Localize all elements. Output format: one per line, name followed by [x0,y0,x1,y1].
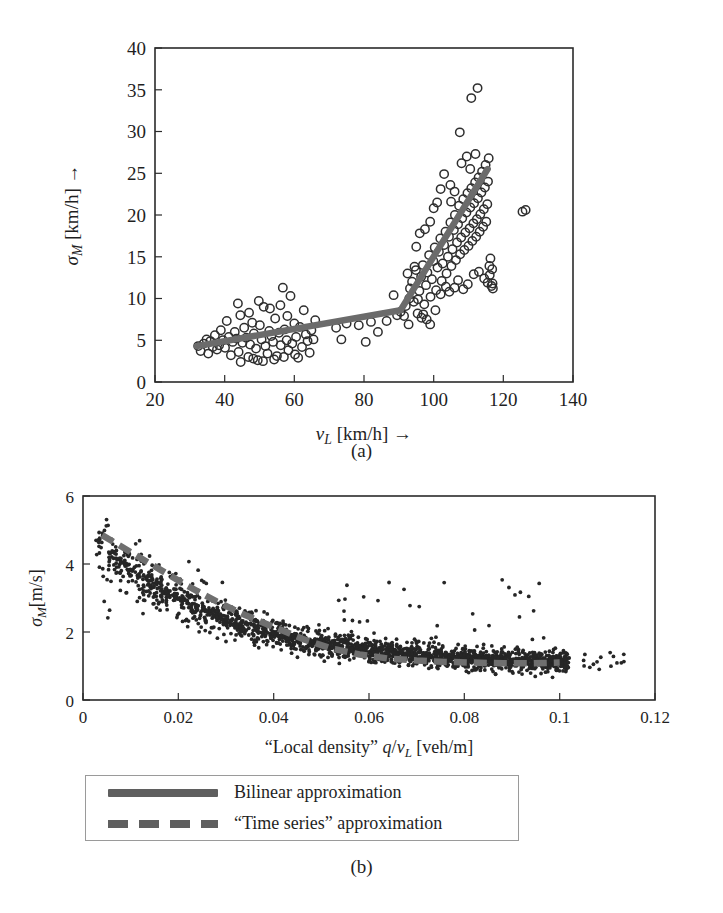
data-point [223,317,231,325]
data-point [255,297,263,305]
data-point [438,653,442,657]
data-point [529,671,533,675]
data-point [366,619,370,623]
data-point [559,658,563,662]
data-point [527,656,531,660]
data-point [466,655,470,659]
data-point [517,652,521,656]
data-point [145,575,149,579]
data-point [431,306,439,314]
data-point [151,602,155,606]
data-point [612,655,616,659]
data-point [240,324,248,332]
data-point [152,584,156,588]
panel-b-xtick-0: 0 [79,708,88,727]
data-point [131,579,135,583]
data-point [300,306,308,314]
data-point [117,565,121,569]
data-point [494,655,498,659]
data-point [254,609,258,613]
data-point [355,321,363,329]
data-point [130,568,134,572]
data-point [229,632,233,636]
data-point [234,299,242,307]
panel-b-y-ticks: 0 2 4 6 [66,488,91,711]
data-point [165,599,169,603]
data-point [403,647,407,651]
data-point [283,312,291,320]
data-point [277,641,281,645]
data-point [239,633,243,637]
data-point [245,308,253,316]
panel-a-y-ticks: 0 5 10 15 20 25 30 35 40 [127,38,162,393]
data-point [199,625,203,629]
data-point [517,670,521,674]
data-point [276,301,284,309]
data-point [462,653,466,657]
data-point [131,556,135,560]
data-point [279,648,283,652]
data-point [346,640,350,644]
data-point [448,658,452,662]
data-point [507,586,511,590]
data-point [475,645,479,649]
data-point [539,652,543,656]
data-point [127,580,131,584]
data-point [467,671,471,675]
data-point [293,625,297,629]
data-point [532,651,536,655]
data-point [619,661,623,665]
panel-a-xtick-120: 120 [489,389,518,410]
data-point [159,575,163,579]
panel-b-ytick-2: 2 [66,624,75,643]
data-point [482,643,486,647]
legend-item-timeseries[interactable]: “Time series” approximation [86,807,518,840]
data-point [236,311,244,319]
data-point [257,646,261,650]
data-point [147,589,151,593]
panel-a-ytick-25: 25 [127,163,146,184]
data-point [451,652,455,656]
data-point [181,595,185,599]
data-point [185,618,189,622]
data-point [165,603,169,607]
data-point [337,335,345,343]
data-point [417,605,421,609]
legend-item-bilinear[interactable]: Bilinear approximation [86,776,518,809]
data-point [224,640,228,644]
data-point [306,629,310,633]
data-point [483,668,487,672]
data-point [559,651,563,655]
data-point [155,587,159,591]
panel-a-xtick-140: 140 [559,389,588,410]
data-point [253,624,257,628]
data-point [109,579,113,583]
data-point [442,581,446,585]
data-point [122,554,126,558]
data-point [122,559,126,563]
panel-b-svg: σM[m/s] 0 2 4 6 [0,470,723,770]
panel-b-xtick-01: 0.1 [549,708,570,727]
data-point [244,622,248,626]
panel-b-xtick-006: 0.06 [354,708,384,727]
data-point [326,656,330,660]
legend-swatch-dashed-icon [108,807,218,840]
data-point [431,645,435,649]
data-point [368,657,372,661]
data-point [222,633,226,637]
data-point [271,645,275,649]
data-point [99,546,103,550]
data-point [95,553,99,557]
data-point [234,348,242,356]
data-point [287,624,291,628]
data-point [211,626,215,630]
data-point [218,620,222,624]
data-point [537,582,541,586]
data-point [141,612,145,616]
data-point [510,651,514,655]
data-point [211,606,215,610]
data-point [340,644,344,648]
data-point [350,630,354,634]
data-point [107,568,111,572]
data-point [471,150,479,158]
